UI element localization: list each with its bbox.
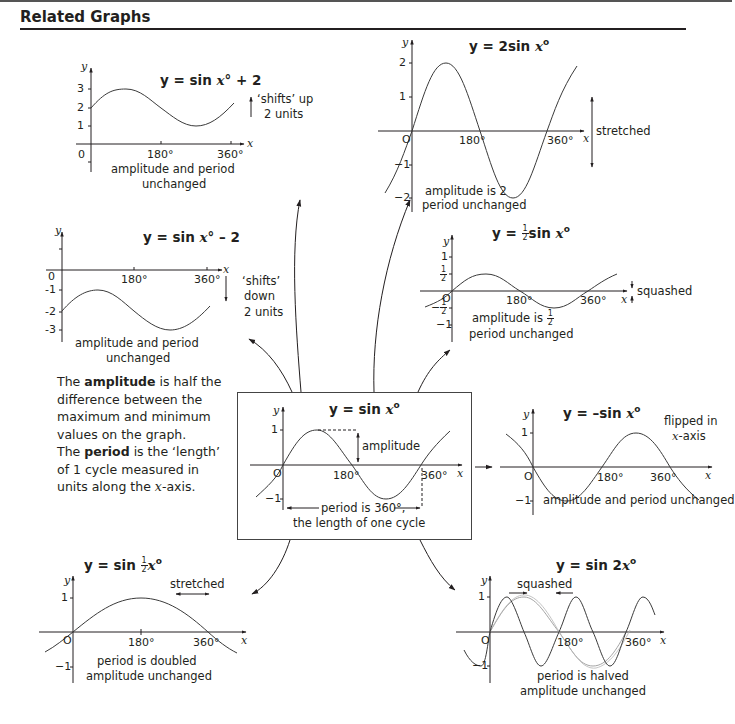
y-tick: 1 [478, 590, 485, 603]
origin-label: O [524, 470, 533, 483]
curve [62, 290, 210, 330]
x-tick: 360° [650, 471, 677, 484]
y-axis-label: y [402, 36, 408, 49]
curve [91, 89, 234, 126]
graph-shift-down [46, 232, 222, 342]
squash-note: squashed [517, 578, 572, 591]
equation-squash-vertical: y = 12sin xo [492, 224, 570, 242]
caption: unchanged [106, 352, 170, 365]
y-axis-label: y [443, 235, 449, 248]
x-tick: 180° [128, 636, 155, 649]
x-tick: 360° [217, 148, 244, 161]
y-axis-label: y [481, 574, 487, 587]
x-tick: 180° [506, 294, 533, 307]
x-tick: 360° [194, 273, 221, 286]
y-tick: −1 [265, 492, 281, 505]
period-label: the length of one cycle [293, 517, 425, 530]
caption: amplitude is 12 [472, 310, 554, 327]
y-tick-half: 12 [440, 266, 447, 283]
y-tick: 1 [77, 119, 84, 132]
equation-squash-horizontal: y = sin 2xo [556, 556, 636, 573]
equation-stretch-vertical: y = 2sin xo [469, 37, 549, 54]
x-axis-label: x [247, 137, 253, 150]
arrow-to-shift-down [249, 339, 292, 392]
y-tick: 1 [61, 591, 68, 604]
stretch-note: stretched [596, 125, 651, 138]
x-axis-label: x [241, 634, 247, 647]
y-tick: 2 [399, 56, 406, 69]
shift-note: ‘shifts’ up [257, 93, 313, 106]
caption: amplitude and period [111, 163, 235, 176]
flip-note: x-axis [672, 430, 706, 443]
y-tick: 3 [77, 82, 84, 95]
shift-note: 2 units [264, 108, 303, 121]
arrow-to-stretch-vertical [374, 200, 410, 392]
y-tick: 1 [271, 423, 278, 436]
caption: amplitude and period unchanged [543, 494, 735, 507]
y-axis-label: y [273, 404, 279, 417]
origin-label: O [481, 634, 490, 647]
origin-label: O [442, 292, 451, 305]
y-axis-label: y [523, 408, 529, 421]
x-axis-label: x [457, 467, 463, 480]
y-tick: −1 [436, 318, 452, 331]
x-tick: 360° [580, 294, 607, 307]
y-tick: 1 [521, 426, 528, 439]
x-tick: 180° [597, 471, 624, 484]
caption: period is halved [537, 670, 629, 683]
arrow-to-squash-horizontal [420, 540, 455, 590]
x-tick: 180° [121, 273, 148, 286]
equation-shift-up: y = sin x° + 2 [160, 72, 261, 88]
y-tick: -2 [45, 305, 56, 318]
shift-note: down [244, 290, 275, 303]
y-tick: −1 [55, 660, 71, 673]
caption: amplitude is 2 [425, 185, 507, 198]
y-axis-label: y [55, 224, 61, 237]
y-tick: 1 [399, 90, 406, 103]
y-tick: −2 [394, 191, 410, 204]
y-tick: 2 [77, 101, 84, 114]
arrow-to-stretch-horizontal [252, 540, 290, 594]
y-tick: −1 [394, 158, 410, 171]
origin-label: O [63, 634, 72, 647]
x-tick: 180° [459, 134, 486, 147]
caption: unchanged [142, 178, 206, 191]
amplitude-label: amplitude [362, 440, 420, 453]
x-tick: 360° [547, 134, 574, 147]
origin-label: 0 [78, 148, 85, 161]
x-tick: 360° [193, 636, 220, 649]
y-tick: -1 [45, 283, 56, 296]
y-axis-label: y [81, 60, 87, 73]
arrow-to-squash-vertical [418, 350, 450, 392]
x-tick: 180° [333, 469, 360, 482]
equation-reflect: y = –sin xo [563, 404, 641, 421]
x-axis-label: x [621, 293, 627, 306]
caption: amplitude unchanged [520, 685, 646, 698]
caption: period unchanged [469, 328, 574, 341]
origin-label: O [273, 467, 282, 480]
y-tick: −1 [472, 659, 488, 672]
period-label: period is 360°, [321, 502, 406, 515]
y-tick: -3 [45, 323, 56, 336]
x-tick: 180° [557, 636, 584, 649]
squash-note: squashed [637, 285, 692, 298]
equation-base: y = sin xo [329, 400, 400, 417]
x-tick: 360° [625, 636, 652, 649]
arrow-to-shift-up [295, 200, 301, 392]
x-tick: 180° [147, 148, 174, 161]
equation-shift-down: y = sin x° – 2 [143, 229, 240, 245]
explanation-text: The amplitude is half the difference bet… [57, 373, 232, 496]
y-tick: 1 [441, 250, 448, 263]
caption: amplitude unchanged [86, 670, 212, 683]
stretch-note: stretched [170, 578, 225, 591]
origin-label: O [402, 133, 411, 146]
shift-note: 2 units [244, 306, 283, 319]
caption: period unchanged [422, 199, 527, 212]
x-axis-label: x [705, 469, 711, 482]
x-axis-label: x [223, 263, 229, 276]
y-axis-label: y [64, 574, 70, 587]
caption: period is doubled [97, 655, 197, 668]
x-axis-label: x [583, 132, 589, 145]
y-tick: −1 [515, 494, 531, 507]
x-axis-label: x [660, 634, 666, 647]
